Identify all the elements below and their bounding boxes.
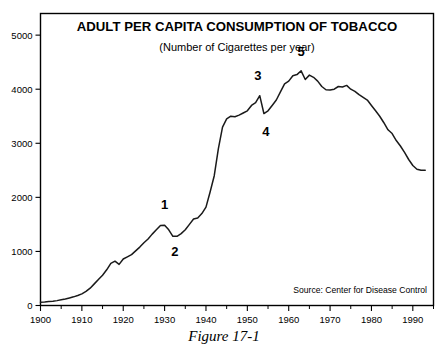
source-note: Source: Center for Disease Control <box>293 285 427 295</box>
annotation-label-1: 1 <box>161 197 168 212</box>
figure-caption: Figure 17-1 <box>187 328 260 344</box>
tobacco-consumption-chart: 010002000300040005000 190019101920193019… <box>0 0 448 349</box>
annotation-label-2: 2 <box>171 244 178 259</box>
y-tick-label: 3000 <box>11 138 32 149</box>
y-tick-label: 4000 <box>11 84 32 95</box>
y-tick-label: 5000 <box>11 30 32 41</box>
figure-container: 010002000300040005000 190019101920193019… <box>0 0 448 349</box>
x-tick-label: 1920 <box>113 314 134 325</box>
x-tick-label: 1940 <box>195 314 216 325</box>
x-tick-label: 1990 <box>402 314 423 325</box>
y-tick-label: 2000 <box>11 192 32 203</box>
y-tick-label: 0 <box>27 300 32 311</box>
x-tick-label: 1980 <box>361 314 382 325</box>
y-tick-label: 1000 <box>11 246 32 257</box>
chart-title: ADULT PER CAPITA CONSUMPTION OF TOBACCO <box>77 19 397 34</box>
annotation-label-3: 3 <box>254 68 261 83</box>
chart-subtitle: (Number of Cigarettes per year) <box>159 41 314 53</box>
x-tick-label: 1960 <box>278 314 299 325</box>
plot-frame <box>41 14 434 306</box>
x-tick-label: 1950 <box>237 314 258 325</box>
x-tick-label: 1910 <box>71 314 92 325</box>
annotation-label-4: 4 <box>262 124 270 139</box>
x-tick-label: 1900 <box>30 314 51 325</box>
x-tick-label: 1930 <box>154 314 175 325</box>
x-tick-label: 1970 <box>320 314 341 325</box>
